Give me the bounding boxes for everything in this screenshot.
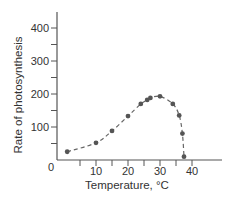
y-axis-ticks: 100200300400 — [31, 22, 57, 144]
y-tick-label: 100 — [31, 121, 49, 133]
axes — [57, 12, 222, 160]
data-point — [182, 154, 187, 159]
data-point — [65, 149, 70, 154]
y-tick-label: 200 — [31, 88, 49, 100]
data-point — [177, 113, 182, 118]
data-point — [148, 96, 153, 101]
y-axis-title: Rate of photosynthesis — [12, 36, 24, 153]
data-point — [94, 140, 99, 145]
data-point — [110, 129, 115, 134]
data-point — [180, 131, 185, 136]
data-points — [65, 94, 187, 159]
y-tick-label: 300 — [31, 55, 49, 67]
origin-label: 0 — [48, 161, 54, 173]
x-axis-ticks: 10203040 — [80, 160, 198, 177]
data-curve — [67, 96, 184, 157]
data-point — [158, 94, 163, 99]
x-axis-title: Temperature, °C — [85, 179, 169, 191]
x-tick-label: 10 — [90, 165, 102, 177]
data-point — [138, 102, 143, 107]
data-point — [126, 114, 131, 119]
photosynthesis-temperature-chart: 100200300400 10203040 0 Temperature, °C … — [0, 0, 227, 205]
x-tick-label: 20 — [122, 165, 134, 177]
data-point — [170, 102, 175, 107]
y-tick-label: 400 — [31, 22, 49, 34]
x-tick-label: 40 — [186, 165, 198, 177]
x-tick-label: 30 — [154, 165, 166, 177]
